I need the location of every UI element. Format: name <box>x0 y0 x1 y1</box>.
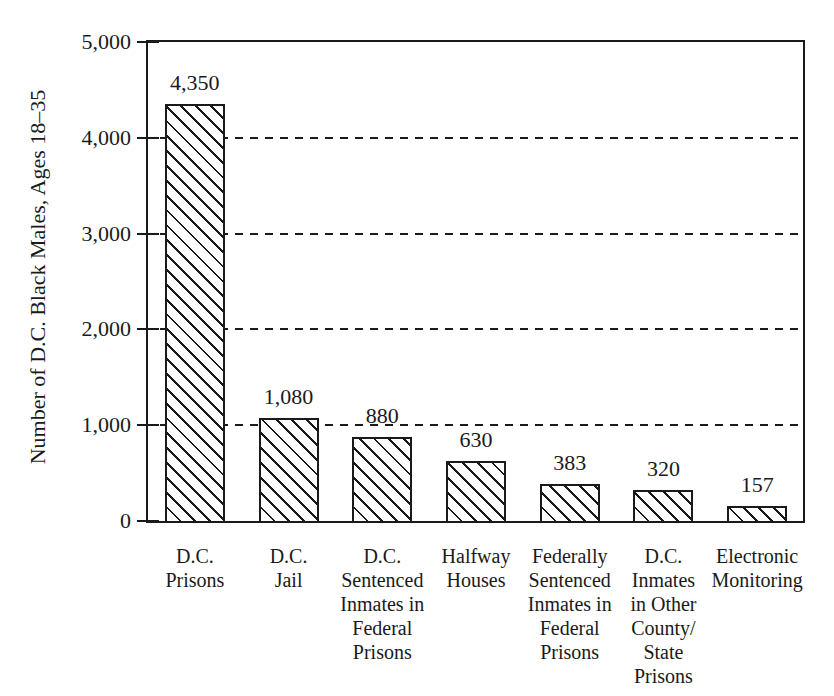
bar-electronic-monitoring <box>727 506 787 521</box>
bar-d-c-sentenced-inmates-in-federal-prisons <box>352 437 412 521</box>
y-tick-2000 <box>137 328 159 330</box>
bar-value-d-c-prisons: 4,350 <box>145 70 245 96</box>
bar-value-federally-sentenced-inmates-in-federal-prisons: 383 <box>520 450 620 476</box>
bar-value-electronic-monitoring: 157 <box>707 472 807 498</box>
y-tick-label-4000: 4,000 <box>31 124 131 152</box>
incarceration-bar-chart-figure: Number of D.C. Black Males, Ages 18–35 0… <box>0 0 834 696</box>
y-tick-label-0: 0 <box>31 507 131 535</box>
bar-value-d-c-sentenced-inmates-in-federal-prisons: 880 <box>332 403 432 429</box>
gridline-2000 <box>160 328 803 330</box>
x-label-electronic-monitoring: Electronic Monitoring <box>695 544 819 592</box>
y-tick-label-1000: 1,000 <box>31 411 131 439</box>
y-tick-label-2000: 2,000 <box>31 315 131 343</box>
gridline-3000 <box>160 233 803 235</box>
bar-d-c-jail <box>259 418 319 521</box>
y-tick-3000 <box>137 233 159 235</box>
y-tick-label-5000: 5,000 <box>31 28 131 56</box>
y-tick-1000 <box>137 424 159 426</box>
bar-d-c-inmates-in-other-county-state-prisons <box>633 490 693 521</box>
bar-d-c-prisons <box>165 104 225 521</box>
bar-value-halfway-houses: 630 <box>426 427 526 453</box>
y-tick-5000 <box>137 41 159 43</box>
bar-value-d-c-jail: 1,080 <box>239 384 339 410</box>
gridline-4000 <box>160 137 803 139</box>
y-tick-0 <box>137 520 159 522</box>
bar-federally-sentenced-inmates-in-federal-prisons <box>540 484 600 521</box>
bar-halfway-houses <box>446 461 506 521</box>
y-tick-4000 <box>137 137 159 139</box>
y-tick-label-3000: 3,000 <box>31 220 131 248</box>
bar-value-d-c-inmates-in-other-county-state-prisons: 320 <box>613 456 713 482</box>
